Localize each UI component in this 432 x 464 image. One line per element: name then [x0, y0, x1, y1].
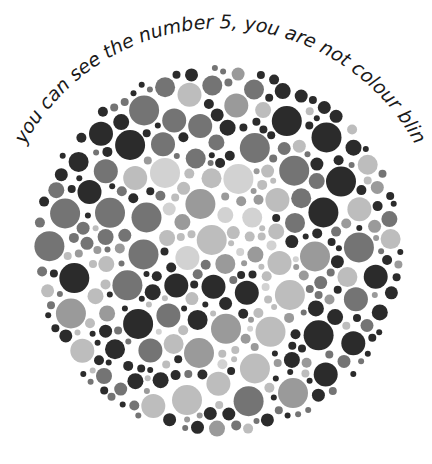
plate-dot: [382, 255, 392, 265]
plate-dot: [259, 225, 265, 231]
plate-dot: [161, 248, 169, 256]
ishihara-dots: [34, 65, 403, 437]
plate-dot: [394, 260, 402, 268]
plate-dot: [224, 79, 232, 87]
plate-dot: [90, 368, 96, 374]
plate-dot: [312, 228, 322, 238]
plate-dot: [159, 230, 175, 246]
plate-dot: [106, 360, 112, 366]
plate-dot: [363, 146, 369, 152]
plate-dot: [37, 267, 47, 277]
plate-dot: [177, 182, 190, 195]
plate-dot: [120, 402, 126, 408]
plate-dot: [101, 279, 111, 289]
plate-dot: [208, 160, 214, 166]
plate-dot: [371, 181, 384, 194]
plate-dot: [269, 75, 279, 85]
plate-dot: [193, 269, 203, 279]
plate-dot: [242, 208, 262, 228]
plate-dot: [284, 352, 300, 368]
plate-dot: [156, 329, 162, 335]
plate-dot: [39, 197, 49, 207]
plate-dot: [373, 235, 379, 241]
plate-dot: [143, 129, 151, 137]
plate-dot: [273, 375, 279, 381]
plate-dot: [174, 214, 190, 230]
plate-dot: [209, 421, 225, 437]
plate-dot: [131, 90, 137, 96]
plate-dot: [267, 131, 275, 139]
plate-dot: [368, 334, 376, 342]
plate-dot: [144, 156, 152, 164]
plate-dot: [218, 350, 226, 358]
plate-dot: [376, 329, 382, 335]
plate-dot: [245, 232, 255, 242]
plate-dot: [318, 101, 331, 114]
plate-dot: [100, 387, 108, 395]
plate-dot: [151, 132, 175, 156]
plate-dot: [98, 229, 114, 245]
plate-dot: [108, 393, 116, 401]
plate-dot: [128, 193, 138, 203]
plate-dot: [237, 271, 245, 279]
plate-dot: [373, 201, 383, 211]
plate-dot: [109, 183, 115, 189]
plate-dot: [98, 256, 114, 272]
plate-dot: [306, 107, 314, 115]
plate-dot: [178, 132, 188, 142]
plate-dot: [118, 229, 131, 242]
plate-dot: [123, 361, 133, 371]
plate-dot: [330, 110, 343, 123]
plate-dot: [307, 378, 313, 384]
plate-dot: [208, 134, 224, 150]
plate-dot: [152, 271, 162, 281]
plate-dot: [50, 269, 58, 277]
plate-dot: [236, 248, 244, 256]
plate-dot: [228, 240, 234, 246]
plate-dot: [234, 386, 264, 416]
plate-dot: [209, 152, 215, 158]
plate-dot: [299, 271, 309, 281]
plate-dot: [327, 309, 343, 325]
plate-dot: [185, 68, 198, 81]
plate-dot: [344, 287, 368, 311]
plate-dot: [275, 406, 283, 414]
plate-dot: [93, 225, 99, 231]
plate-dot: [349, 162, 355, 168]
plate-dot: [215, 158, 225, 168]
plate-dot: [217, 359, 227, 369]
plate-dot: [107, 292, 113, 298]
plate-dot: [184, 169, 194, 179]
plate-dot: [347, 197, 371, 221]
plate-dot: [315, 291, 323, 299]
plate-dot: [235, 281, 259, 305]
plate-dot: [279, 156, 309, 186]
plate-dot: [378, 248, 384, 254]
plate-dot: [99, 306, 115, 322]
plate-dot: [350, 371, 356, 377]
plate-dot: [110, 104, 118, 112]
plate-dot: [278, 378, 308, 408]
plate-dot: [300, 242, 330, 272]
plate-dot: [220, 120, 236, 136]
plate-dot: [123, 309, 153, 339]
plate-dot: [155, 122, 161, 128]
plate-dot: [264, 296, 272, 304]
plate-dot: [364, 176, 372, 184]
plate-dot: [47, 301, 55, 309]
plate-dot: [238, 309, 248, 319]
plate-dot: [144, 271, 150, 277]
plate-dot: [51, 324, 59, 332]
plate-dot: [265, 94, 273, 102]
plate-dot: [95, 198, 125, 228]
plate-dot: [251, 343, 259, 351]
plate-dot: [76, 175, 82, 181]
plate-dot: [178, 83, 202, 107]
plate-dot: [217, 207, 233, 223]
plate-dot: [275, 280, 305, 310]
plate-dot: [125, 339, 131, 345]
plate-dot: [95, 340, 101, 346]
plate-dot: [202, 275, 226, 299]
plate-dot: [298, 345, 306, 353]
plate-dot: [186, 149, 206, 169]
